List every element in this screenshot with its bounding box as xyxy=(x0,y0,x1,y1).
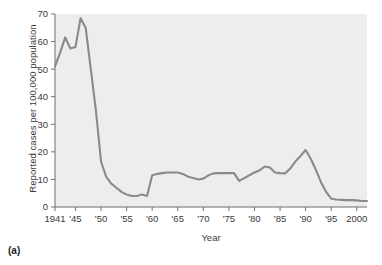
y-tick-label: 30 xyxy=(37,119,48,130)
x-tick-label: '50 xyxy=(95,213,107,224)
y-tick-label: 70 xyxy=(37,8,48,19)
x-tick-label: '75 xyxy=(223,213,235,224)
x-tick-label: '65 xyxy=(172,213,184,224)
x-tick-label: '80 xyxy=(248,213,260,224)
x-tick-label: '60 xyxy=(146,213,158,224)
y-tick-label: 0 xyxy=(43,201,48,212)
x-tick-label: '55 xyxy=(120,213,132,224)
x-tick-label: 2000 xyxy=(346,213,367,224)
line-chart: 0102030405060701941'45'50'55'60'65'70'75… xyxy=(0,0,382,265)
figure-panel: Reported cases per 100,000 population Ye… xyxy=(0,0,382,265)
y-tick-label: 20 xyxy=(37,146,48,157)
x-tick-label: '85 xyxy=(274,213,286,224)
x-tick-label: '70 xyxy=(197,213,209,224)
x-tick-label: '45 xyxy=(69,213,81,224)
x-tick-label: '95 xyxy=(325,213,337,224)
y-tick-label: 60 xyxy=(37,36,48,47)
x-tick-label: '90 xyxy=(299,213,311,224)
y-tick-label: 10 xyxy=(37,174,48,185)
y-tick-label: 40 xyxy=(37,91,48,102)
y-tick-label: 50 xyxy=(37,64,48,75)
x-tick-label: 1941 xyxy=(44,213,65,224)
